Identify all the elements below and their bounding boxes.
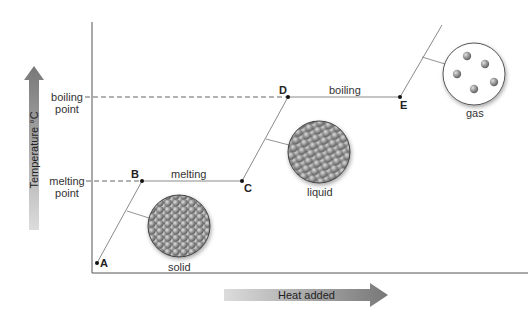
liquid-label: liquid (307, 186, 333, 198)
heating-curve-diagram (0, 0, 528, 317)
gas-label: gas (466, 107, 484, 119)
boiling-point-label: boiling point (50, 91, 84, 115)
point-b-label: B (131, 168, 139, 180)
solid-particles-icon (148, 195, 210, 257)
point-e-label: E (400, 99, 407, 111)
gas-particles-icon (443, 43, 505, 105)
point-d-label: D (279, 84, 287, 96)
solid-label: solid (168, 261, 191, 273)
curve-points (95, 95, 402, 265)
melting-segment-label: melting (171, 168, 206, 180)
liquid-particles-icon (288, 121, 350, 183)
point-a-label: A (100, 257, 108, 269)
y-axis-label: Temperature °C (28, 111, 40, 188)
leader-lines (127, 57, 445, 218)
melting-point-label: melting point (48, 175, 86, 199)
boiling-segment-label: boiling (329, 84, 361, 96)
point-c-label: C (244, 182, 252, 194)
x-axis-label: Heat added (278, 289, 335, 301)
